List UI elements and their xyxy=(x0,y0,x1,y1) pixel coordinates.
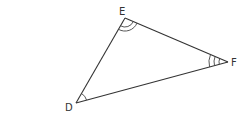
triangle-edges xyxy=(76,18,228,103)
angle-mark-d xyxy=(82,94,87,101)
edge-fd xyxy=(76,62,228,103)
vertex-label-f: F xyxy=(231,57,237,68)
vertex-labels: E F D xyxy=(65,6,237,113)
edge-de xyxy=(76,18,125,103)
vertex-label-e: E xyxy=(119,6,125,17)
vertex-label-d: D xyxy=(65,102,73,113)
angle-mark-e xyxy=(119,22,138,32)
edge-ef xyxy=(125,18,228,62)
triangle-diagram: E F D xyxy=(0,0,249,128)
